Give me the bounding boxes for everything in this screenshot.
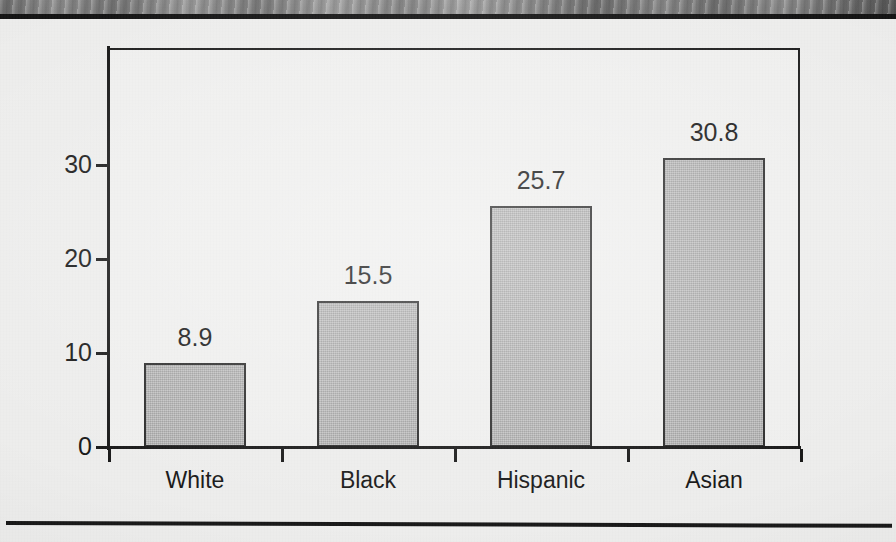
y-axis-tick [96, 352, 109, 355]
bar-black [317, 301, 419, 447]
x-axis-tick [454, 449, 457, 462]
bar-white [144, 363, 246, 447]
y-axis-tick-label-text: 0 [32, 434, 92, 459]
x-axis-tick [281, 449, 284, 462]
x-axis-category-label-asian: Asian [629, 468, 799, 493]
bar-asian [663, 158, 765, 447]
horizontal-rule-top [0, 14, 896, 19]
y-axis-line [107, 46, 110, 450]
bar-value-label-black: 15.5 [308, 263, 428, 288]
bar-value-label-white: 8.9 [135, 325, 255, 350]
x-axis-tick [800, 449, 803, 462]
horizontal-rule-bottom [6, 521, 892, 528]
y-axis-tick-label-text: 30 [32, 152, 92, 177]
x-axis-category-label-white: White [110, 468, 280, 493]
y-axis-tick [96, 258, 109, 261]
photo-fragment [0, 0, 896, 14]
y-axis-tick-label-text: 20 [32, 246, 92, 271]
x-axis-tick [627, 449, 630, 462]
bar-value-label-asian: 30.8 [654, 120, 774, 145]
y-axis-tick [96, 164, 109, 167]
x-axis-category-label-hispanic: Hispanic [456, 468, 626, 493]
x-axis-tick [108, 449, 111, 462]
bar-value-label-hispanic: 25.7 [481, 168, 601, 193]
bar-hispanic [490, 206, 592, 447]
scanned-page: 0102030 8.9White15.5Black25.7Hispanic30.… [0, 0, 896, 542]
x-axis-category-label-black: Black [283, 468, 453, 493]
y-axis-tick-label-text: 10 [32, 340, 92, 365]
